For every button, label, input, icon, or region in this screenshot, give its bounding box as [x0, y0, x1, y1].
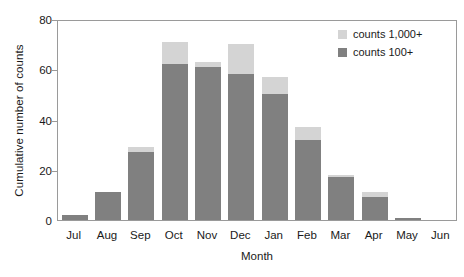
- x-tick-label-feb: Feb: [290, 228, 323, 242]
- bar-sep: [128, 147, 154, 220]
- y-tick-mark: [51, 171, 57, 172]
- bar-aug: [95, 192, 121, 220]
- bar-segment-counts-100-plus: [328, 177, 354, 220]
- bar-segment-counts-100-plus: [262, 94, 288, 220]
- x-tick-label-jul: Jul: [57, 228, 90, 242]
- bar-segment-counts-1000-plus: [262, 77, 288, 95]
- bar-segment-counts-100-plus: [195, 67, 221, 220]
- bar-segment-counts-100-plus: [162, 64, 188, 220]
- bar-feb: [295, 127, 321, 220]
- x-tick-label-mar: Mar: [324, 228, 357, 242]
- x-axis-tick-labels: JulAugSepOctNovDecJanFebMarAprMayJun: [57, 228, 457, 244]
- bar-chart-figure: Cumulative number of counts 020406080 co…: [0, 0, 464, 277]
- x-tick-label-oct: Oct: [157, 228, 190, 242]
- bar-oct: [162, 42, 188, 220]
- bar-segment-counts-100-plus: [95, 192, 121, 220]
- x-tick-label-dec: Dec: [224, 228, 257, 242]
- bar-segment-counts-1000-plus: [362, 192, 388, 197]
- x-tick-label-jun: Jun: [424, 228, 457, 242]
- y-tick-label: 0: [22, 215, 52, 227]
- legend-label: counts 100+: [353, 46, 413, 58]
- legend-item: counts 100+: [338, 43, 422, 61]
- x-tick-label-sep: Sep: [124, 228, 157, 242]
- x-tick-label-nov: Nov: [190, 228, 223, 242]
- x-tick-label-may: May: [390, 228, 423, 242]
- chart-legend: counts 1,000+counts 100+: [338, 25, 422, 61]
- y-tick-label: 60: [22, 64, 52, 76]
- bar-segment-counts-100-plus: [62, 215, 88, 220]
- bar-segment-counts-100-plus: [395, 218, 421, 221]
- bar-segment-counts-100-plus: [362, 197, 388, 220]
- y-tick-label: 20: [22, 165, 52, 177]
- bar-segment-counts-1000-plus: [195, 62, 221, 67]
- y-tick-mark: [51, 121, 57, 122]
- bar-segment-counts-100-plus: [228, 74, 254, 220]
- bar-segment-counts-1000-plus: [128, 147, 154, 152]
- bar-jul: [62, 215, 88, 220]
- y-tick-mark: [51, 70, 57, 71]
- bar-segment-counts-1000-plus: [328, 175, 354, 178]
- legend-swatch-icon: [338, 48, 347, 57]
- bar-segment-counts-100-plus: [128, 152, 154, 220]
- x-tick-label-apr: Apr: [357, 228, 390, 242]
- bar-segment-counts-1000-plus: [228, 44, 254, 74]
- x-axis-title: Month: [57, 250, 457, 262]
- bar-dec: [228, 44, 254, 220]
- legend-swatch-icon: [338, 30, 347, 39]
- x-tick-label-jan: Jan: [257, 228, 290, 242]
- y-tick-label: 80: [22, 14, 52, 26]
- bar-mar: [328, 175, 354, 220]
- bar-segment-counts-100-plus: [295, 140, 321, 220]
- y-tick-mark: [51, 20, 57, 21]
- bar-nov: [195, 62, 221, 220]
- bar-segment-counts-1000-plus: [295, 127, 321, 140]
- legend-label: counts 1,000+: [353, 28, 422, 40]
- bar-segment-counts-1000-plus: [162, 42, 188, 65]
- y-axis-tick-labels: 020406080: [20, 0, 52, 277]
- bar-may: [395, 218, 421, 221]
- x-tick-label-aug: Aug: [90, 228, 123, 242]
- bar-apr: [362, 192, 388, 220]
- bar-jan: [262, 77, 288, 220]
- y-tick-label: 40: [22, 115, 52, 127]
- legend-item: counts 1,000+: [338, 25, 422, 43]
